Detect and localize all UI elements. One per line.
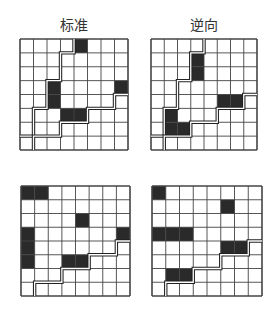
dark-cell: [62, 255, 76, 269]
dark-cell: [221, 241, 235, 255]
dark-cell: [76, 255, 90, 269]
grid-standard: [17, 36, 131, 153]
dark-cell: [191, 53, 204, 67]
grid-bottom-right: [149, 183, 265, 299]
dark-cell: [221, 200, 235, 214]
dark-cell: [76, 214, 90, 228]
grid-reverse: [148, 36, 260, 153]
dark-cell: [152, 186, 166, 200]
dark-cell: [166, 269, 180, 283]
dark-cell: [21, 255, 35, 269]
grid-bottom-left: [18, 183, 133, 299]
dark-cell: [231, 95, 244, 109]
dark-cell: [35, 186, 49, 200]
dark-cell: [116, 227, 130, 241]
dark-cell: [21, 241, 35, 255]
dark-cell: [21, 227, 35, 241]
dark-cell: [74, 108, 88, 122]
dark-cell: [115, 81, 129, 95]
dark-cell: [191, 67, 204, 81]
dark-cell: [74, 39, 88, 53]
dark-cell: [47, 81, 61, 95]
dark-cell: [164, 108, 177, 122]
dark-cell: [178, 122, 191, 136]
dark-cell: [152, 227, 166, 241]
dark-cell: [217, 95, 230, 109]
dark-cell: [166, 227, 180, 241]
dark-cell: [47, 95, 61, 109]
dark-cell: [180, 227, 194, 241]
dark-cell: [61, 108, 75, 122]
dark-cell: [164, 122, 177, 136]
dark-cell: [180, 269, 194, 283]
dark-cell: [21, 186, 35, 200]
dark-cell: [235, 241, 249, 255]
panel-title-standard: 标准: [19, 14, 129, 34]
panel-title-reverse: 逆向: [149, 14, 259, 34]
